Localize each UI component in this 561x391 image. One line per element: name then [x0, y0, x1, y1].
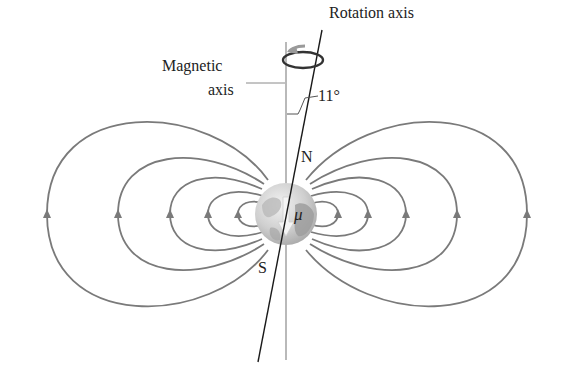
magnetic-axis-label-line1: Magnetic	[162, 57, 222, 75]
arrow-up-icon	[402, 209, 410, 218]
north-pole-label: N	[301, 148, 313, 165]
arrow-up-icon	[166, 209, 174, 218]
arrow-up-icon	[334, 209, 342, 218]
rotation-axis-label: Rotation axis	[329, 4, 414, 21]
field-arrows-left	[43, 209, 242, 218]
arrow-up-icon	[43, 209, 51, 218]
angle-marker	[287, 96, 318, 114]
arrow-up-icon	[234, 210, 242, 218]
field-loop-left-5	[47, 122, 268, 306]
magnetic-axis-label-line2: axis	[208, 81, 234, 98]
field-arrows-right	[334, 209, 531, 218]
field-loop-left-4	[118, 158, 264, 270]
south-pole-label: S	[258, 259, 267, 276]
field-lines-left	[47, 122, 268, 306]
earth-magnetic-field-diagram: Rotation axis Magnetic axis 11° N S μ	[0, 0, 561, 391]
arrow-up-icon	[204, 209, 212, 218]
field-loop-right-3	[312, 178, 406, 251]
field-loop-left-3	[170, 178, 262, 251]
arrow-up-icon	[523, 209, 531, 218]
tilt-angle-label: 11°	[318, 87, 340, 104]
field-loop-left-2	[208, 192, 263, 236]
arrow-up-icon	[453, 209, 461, 218]
arrow-up-icon	[114, 209, 122, 218]
arrow-up-icon	[364, 209, 372, 218]
magnetic-moment-label: μ	[293, 205, 303, 224]
field-loop-right-4	[310, 158, 457, 270]
